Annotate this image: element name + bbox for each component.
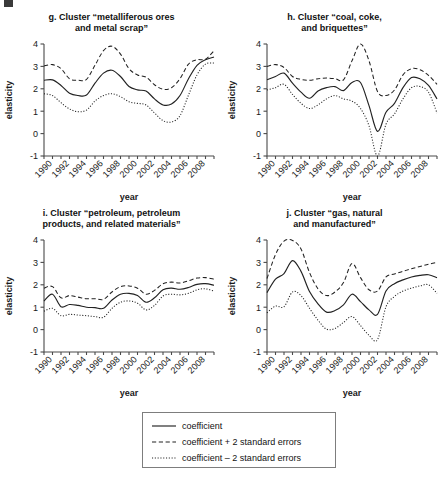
legend-label-lower-band: coefficient – 2 standard errors [182, 453, 301, 463]
y-tick-label: -1 [30, 347, 38, 357]
x-tick-label: 1990 [33, 354, 54, 375]
x-tick-label: 1992 [273, 158, 294, 179]
y-tick-label: -1 [253, 347, 261, 357]
y-tick-label: -1 [253, 151, 261, 161]
panel-g-chart: -101234199019921994199619982000200220042… [0, 8, 223, 204]
y-tick-label: 2 [256, 280, 261, 290]
x-tick-label: 1994 [290, 354, 311, 375]
x-tick-label: 2004 [375, 354, 396, 375]
y-tick-label: 3 [33, 62, 38, 72]
x-tick-label: 2000 [341, 158, 362, 179]
x-tick-label: 1994 [290, 158, 311, 179]
series-dotted [267, 84, 437, 156]
x-tick-label: 2002 [358, 354, 379, 375]
y-tick-label: 2 [33, 84, 38, 94]
x-tick-label: 1996 [84, 158, 105, 179]
panel-i-chart: -101234199019921994199619982000200220042… [0, 204, 223, 400]
x-tick-label: 2004 [152, 158, 173, 179]
panel-j-chart: -101234199019921994199619982000200220042… [223, 204, 446, 400]
panel-g: g. Cluster “metalliferous oresand metal … [0, 8, 223, 204]
y-tick-label: 0 [256, 325, 261, 335]
series-solid [44, 284, 214, 309]
series-dashed [267, 239, 437, 295]
x-tick-label: 1998 [324, 354, 345, 375]
y-tick-label: 3 [256, 62, 261, 72]
y-axis-title: elasticity [4, 81, 14, 120]
y-axis-title: elasticity [227, 81, 237, 120]
x-tick-label: 1990 [33, 158, 54, 179]
y-axis-title: elasticity [227, 277, 237, 316]
y-tick-label: 1 [33, 107, 38, 117]
x-tick-label: 1996 [307, 158, 328, 179]
y-tick-label: 4 [256, 235, 261, 245]
axis-lines [267, 240, 437, 352]
y-tick-label: 4 [256, 39, 261, 49]
x-tick-label: 1998 [101, 158, 122, 179]
x-tick-label: 1998 [324, 158, 345, 179]
y-tick-label: 0 [256, 129, 261, 139]
figure-corner-mark [4, 0, 13, 7]
panel-grid: g. Cluster “metalliferous oresand metal … [0, 8, 446, 400]
legend-sample-solid [151, 421, 177, 431]
x-axis-title: year [120, 388, 139, 398]
y-tick-label: 1 [33, 303, 38, 313]
y-tick-label: 2 [33, 280, 38, 290]
y-tick-label: 0 [33, 325, 38, 335]
chart-legend: coefficient coefficient + 2 standard err… [142, 412, 336, 468]
x-axis-title: year [120, 192, 139, 202]
x-tick-label: 2002 [135, 354, 156, 375]
x-tick-label: 1996 [84, 354, 105, 375]
y-tick-label: 1 [256, 107, 261, 117]
x-tick-label: 2008 [186, 354, 207, 375]
x-tick-label: 2002 [135, 158, 156, 179]
x-tick-label: 2000 [341, 354, 362, 375]
figure-elasticity-clusters: g. Cluster “metalliferous oresand metal … [0, 0, 446, 483]
series-solid [267, 73, 437, 132]
x-tick-label: 2004 [152, 354, 173, 375]
x-tick-label: 2006 [169, 354, 190, 375]
y-tick-label: 1 [256, 303, 261, 313]
legend-label-upper-band: coefficient + 2 standard errors [182, 437, 301, 447]
x-tick-label: 2002 [358, 158, 379, 179]
y-tick-label: 4 [33, 39, 38, 49]
x-tick-label: 1990 [256, 158, 277, 179]
legend-item-upper-band: coefficient + 2 standard errors [151, 434, 335, 450]
legend-sample-dashed [151, 437, 177, 447]
series-dashed [44, 46, 214, 89]
series-dotted [267, 284, 437, 341]
x-tick-label: 1998 [101, 354, 122, 375]
x-tick-label: 1992 [273, 354, 294, 375]
panel-h: h. Cluster “coal, coke,and briquettes” -… [223, 8, 446, 204]
y-tick-label: -1 [30, 151, 38, 161]
y-axis-title: elasticity [4, 277, 14, 316]
legend-item-lower-band: coefficient – 2 standard errors [151, 450, 335, 466]
panel-j: j. Cluster “gas, naturaland manufactured… [223, 204, 446, 400]
series-dashed [44, 278, 214, 300]
axis-lines [44, 44, 214, 156]
x-tick-label: 1992 [50, 158, 71, 179]
legend-label-coefficient: coefficient [182, 421, 222, 431]
panel-h-chart: -101234199019921994199619982000200220042… [223, 8, 446, 204]
y-tick-label: 3 [256, 258, 261, 268]
x-tick-label: 2008 [409, 158, 430, 179]
legend-sample-dotted [151, 453, 177, 463]
y-tick-label: 3 [33, 258, 38, 268]
x-tick-label: 1992 [50, 354, 71, 375]
x-tick-label: 2008 [186, 158, 207, 179]
x-tick-label: 2000 [118, 354, 139, 375]
x-axis-title: year [343, 388, 362, 398]
x-tick-label: 2006 [169, 158, 190, 179]
x-tick-label: 2000 [118, 158, 139, 179]
axis-lines [44, 240, 214, 352]
panel-i: i. Cluster “petroleum, petroleumproducts… [0, 204, 223, 400]
x-tick-label: 1994 [67, 158, 88, 179]
y-tick-label: 0 [33, 129, 38, 139]
x-tick-label: 2006 [392, 158, 413, 179]
x-tick-label: 2004 [375, 158, 396, 179]
x-tick-label: 1990 [256, 354, 277, 375]
x-tick-label: 2008 [409, 354, 430, 375]
x-axis-title: year [343, 192, 362, 202]
x-tick-label: 1996 [307, 354, 328, 375]
y-tick-label: 4 [33, 235, 38, 245]
x-tick-label: 2006 [392, 354, 413, 375]
